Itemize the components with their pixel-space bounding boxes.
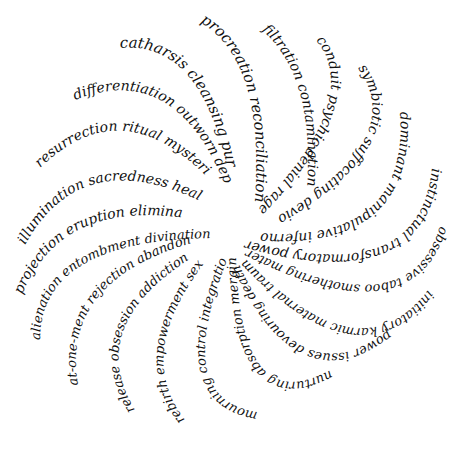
word-spiral-figure: procreation reconciliation filtration co… [0, 0, 457, 461]
